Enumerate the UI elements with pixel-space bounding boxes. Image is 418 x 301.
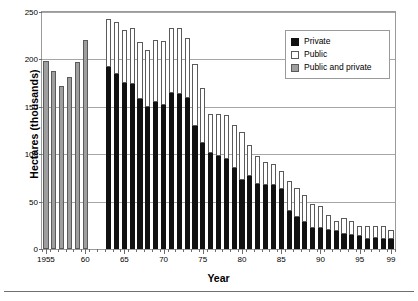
bar-segment-private [381,239,386,249]
bar-segment-private [153,102,158,249]
caption-sliver [5,293,305,300]
bar-segment-public [287,181,292,211]
bar-segment-public [326,215,331,230]
x-tick-mark [175,249,176,252]
bar-column [90,12,95,249]
bar-segment-private [255,184,260,249]
bar-column [114,12,119,249]
x-tick-mark [246,249,247,252]
x-tick-mark [317,249,318,252]
x-tick-mark [113,249,114,252]
bar-segment-public-and-private [83,40,88,250]
x-tick-mark [42,249,43,252]
x-tick-mark [191,249,192,252]
y-tick-label: 50 [29,197,38,206]
bar-segment-public [208,114,213,153]
bar-segment-private [263,185,268,249]
x-tick-mark [128,249,129,252]
bar-segment-public [388,230,393,239]
legend-item-private: Private [291,35,384,48]
y-tick-label: 200 [25,55,38,64]
bar-column [208,12,213,249]
y-tick-label: 150 [25,102,38,111]
x-tick-mark [309,249,310,252]
x-tick-mark [73,249,74,252]
y-tick-label: 100 [25,150,38,159]
x-tick-mark [238,249,239,252]
bar-column [192,12,197,249]
x-tick-mark-major [360,249,361,254]
bar-segment-private [318,228,323,249]
x-tick-mark [144,249,145,252]
x-tick-mark [66,249,67,252]
x-tick-mark [105,249,106,252]
bar-segment-public [153,40,158,103]
bar-segment-public [334,221,339,231]
bar-column [122,12,127,249]
bar-column [200,12,205,249]
bar-segment-public [224,115,229,159]
x-tick-mark-major [281,249,282,254]
bar-column [271,12,276,249]
bar-segment-private [208,153,213,249]
bar-segment-private [224,159,229,249]
bar-segment-private [145,107,150,249]
bar-segment-private [373,238,378,249]
x-tick-mark [285,249,286,252]
bar-segment-private [247,176,252,249]
x-tick-label: 90 [316,255,325,264]
y-tick-label: 0 [34,245,38,254]
bar-segment-private [365,239,370,249]
x-tick-label: 95 [355,255,364,264]
bar-column [239,12,244,249]
x-tick-mark [168,249,169,252]
bar-column [106,12,111,249]
bar-column [224,12,229,249]
bar-segment-private [192,126,197,249]
bar-segment-public [177,28,182,94]
bar-column [130,12,135,249]
bar-segment-private [341,234,346,249]
bar-column [145,12,150,249]
x-tick-label: 70 [159,255,168,264]
x-tick-mark [89,249,90,252]
bar-segment-public [279,171,284,189]
x-tick-mark-major [242,249,243,254]
bar-segment-public [310,204,315,229]
x-tick-mark [97,249,98,252]
x-tick-mark [215,249,216,252]
bar-column [161,12,166,249]
bar-segment-public [161,41,166,105]
bar-segment-public [200,88,205,143]
bar-segment-public [192,64,197,126]
x-tick-mark [120,249,121,252]
bar-segment-private [106,67,111,249]
bar-segment-public [357,226,362,235]
bar-segment-public-and-private [43,61,48,249]
x-tick-mark [207,249,208,252]
bar-column [153,12,158,249]
x-tick-mark [81,249,82,252]
bottom-divider [4,291,414,292]
x-tick-mark [199,249,200,252]
bar-segment-private [302,222,307,249]
bar-segment-public [255,156,260,183]
bar-segment-public [381,226,386,238]
bar-segment-public [365,226,370,238]
x-tick-mark [160,249,161,252]
bar-segment-private [169,93,174,249]
legend-swatch-public-and-private-icon [291,64,299,72]
bar-segment-public [318,206,323,228]
x-axis-title: Year [41,272,396,284]
bar-segment-private [216,156,221,249]
bar-segment-private [357,236,362,249]
bar-column [185,12,190,249]
legend-label-public: Public [304,50,327,59]
bar-segment-public [216,114,221,156]
bar-segment-private [185,98,190,249]
bar-segment-public [145,50,150,107]
bar-segment-private [279,189,284,249]
x-tick-label: 85 [277,255,286,264]
x-tick-mark-major [203,249,204,254]
x-tick-mark [277,249,278,252]
